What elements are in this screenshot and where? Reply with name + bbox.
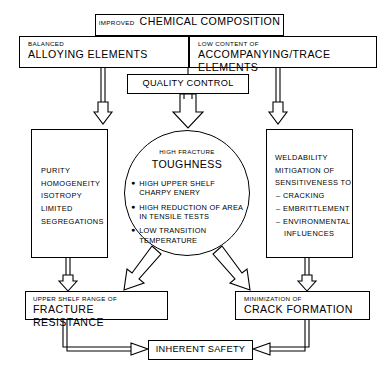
purity-line: SEGREGATIONS [41,216,107,229]
arrowhead-to-purity [94,102,112,124]
crack-formation-small: MINIMIZATION OF [244,295,369,303]
weldability-item: – ENVIRONMENTAL [275,216,352,229]
crack-formation-title: CRACK FORMATION [244,303,369,316]
toughness-bullet-list: ● HIGH UPPER SHELF CHARPY ENERY ● HIGH R… [131,179,251,250]
bullet-line: HIGH UPPER SHELF [139,179,215,188]
flowchart-diagram: IMPROVED CHEMICAL COMPOSITION BALANCED A… [0,0,379,378]
node-crack-formation[interactable]: MINIMIZATION OF CRACK FORMATION [235,291,370,320]
node-chemical-composition[interactable]: IMPROVED CHEMICAL COMPOSITION [95,14,284,36]
weldability-item-label: EMBRITTLEMENT [283,204,350,213]
node-fracture-resistance[interactable]: UPPER SHELF RANGE OF FRACTURE RESISTANCE [25,291,168,320]
toughness-bullet: ● LOW TRANSITION TEMPERATURE [131,226,251,245]
arrowhead-to-weldability [269,102,287,124]
fracture-resistance-title: FRACTURE RESISTANCE [33,303,167,329]
toughness-small: HIGH FRACTURE [125,148,249,156]
connector-purity-to-fracture [66,258,70,275]
node-purity-properties[interactable]: PURITY HOMOGENEITY ISOTROPY LIMITED SEGR… [31,129,108,258]
node-weldability[interactable]: WELDABILITY MITIGATION OF SENSITIVENESS … [266,129,353,258]
weldability-heading: MITIGATION OF [275,165,352,178]
toughness-bullet: ● HIGH UPPER SHELF CHARPY ENERY [131,179,251,198]
bullet-dot-icon: ● [131,226,135,245]
trace-small: LOW CONTENT OF [198,40,376,48]
weldability-item-continued: INFLUENCES [275,228,352,241]
purity-line: HOMOGENEITY [41,178,107,191]
weldability-item: – CRACKING [275,190,352,203]
connector-weld-to-crack [305,258,309,275]
bullet-line: HIGH REDUCTION OF AREA [139,203,243,212]
fracture-resistance-small: UPPER SHELF RANGE OF [33,295,167,303]
weldability-item-label: CRACKING [283,191,325,200]
bullet-line: LOW TRANSITION [139,226,206,235]
toughness-title: TOUGHNESS [125,158,249,171]
quality-control-title: QUALITY CONTROL [142,78,233,90]
node-accompanying-trace-elements[interactable]: LOW CONTENT OF ACCOMPANYING/TRACE ELEMEN… [189,36,377,68]
dash-marker-icon: – [276,204,280,213]
bullet-dot-icon: ● [131,179,135,198]
chemical-composition-title: CHEMICAL COMPOSITION [140,15,281,28]
connector-circle-to-crack [213,246,250,290]
purity-line: LIMITED [41,203,107,216]
node-inherent-safety[interactable]: INHERENT SAFETY [148,340,253,360]
weldability-heading: SENSITIVENESS TO [275,177,352,190]
connector-crack-to-safety [270,320,309,351]
chemical-composition-small: IMPROVED [99,19,135,27]
weldability-item: – EMBRITTLEMENT [275,203,352,216]
purity-line: ISOTROPY [41,190,107,203]
balanced-title: ALLOYING ELEMENTS [28,48,188,61]
connector-qc-to-circle [173,94,203,128]
bullet-line: TEMPERATURE [139,236,197,245]
weldability-item-label: ENVIRONMENTAL [283,217,351,226]
toughness-bullet: ● HIGH REDUCTION OF AREA IN TENSILE TEST… [131,203,251,222]
node-high-fracture-toughness[interactable]: HIGH FRACTURE TOUGHNESS ● HIGH UPPER SHE… [124,130,250,256]
connector-circle-to-fracture [124,246,161,290]
dash-marker-icon: – [276,217,280,226]
weldability-heading: WELDABILITY [275,152,352,165]
bullet-line: IN TENSILE TESTS [139,212,209,221]
node-balanced-alloying-elements[interactable]: BALANCED ALLOYING ELEMENTS [19,36,189,68]
bullet-line: CHARPY ENERY [139,188,200,197]
inherent-safety-title: INHERENT SAFETY [156,344,246,356]
node-quality-control[interactable]: QUALITY CONTROL [127,74,249,94]
trace-title: ACCOMPANYING/TRACE ELEMENTS [198,48,376,74]
dash-marker-icon: – [276,191,280,200]
balanced-small: BALANCED [28,40,188,48]
bullet-dot-icon: ● [131,203,135,222]
purity-line: PURITY [41,165,107,178]
